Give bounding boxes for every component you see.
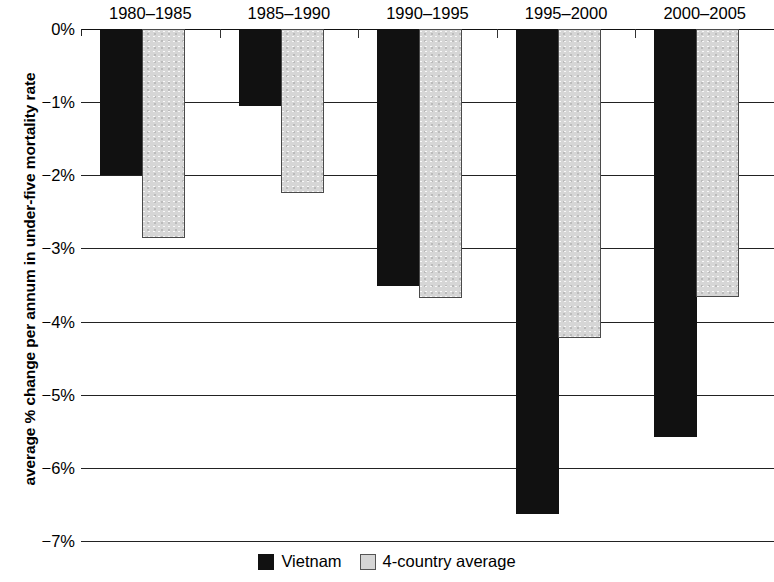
gridline-neg7 xyxy=(81,541,774,542)
bar-average xyxy=(419,29,462,298)
bar-average xyxy=(696,29,739,297)
gridline-neg6 xyxy=(81,468,774,469)
category-separator-tick xyxy=(497,29,498,38)
bar-vietnam xyxy=(654,29,697,437)
category-label: 1985–1990 xyxy=(220,4,359,23)
y-tick-label: 0% xyxy=(20,21,75,38)
bar-vietnam xyxy=(100,29,143,175)
plot-area xyxy=(81,29,774,541)
category-label: 1990–1995 xyxy=(358,4,497,23)
gray-square-swatch-icon xyxy=(360,554,376,570)
y-tick-label: −2% xyxy=(20,167,75,184)
bar-average xyxy=(142,29,185,238)
chart-legend: Vietnam 4-country average xyxy=(0,552,774,571)
legend-label-4-country-average: 4-country average xyxy=(383,552,516,571)
category-label: 2000–2005 xyxy=(635,4,774,23)
bar-vietnam xyxy=(516,29,559,514)
bar-average xyxy=(281,29,324,193)
legend-label-vietnam: Vietnam xyxy=(281,552,341,571)
y-tick-label: −6% xyxy=(20,460,75,477)
category-separator-tick xyxy=(635,29,636,38)
y-tick-label: −3% xyxy=(20,240,75,257)
y-axis-stub-tick xyxy=(81,29,82,36)
y-tick-label: −1% xyxy=(20,94,75,111)
category-separator-tick xyxy=(358,29,359,38)
y-tick-label: −5% xyxy=(20,386,75,403)
y-tick-label: −4% xyxy=(20,313,75,330)
bar-vietnam xyxy=(239,29,282,106)
legend-item-vietnam: Vietnam xyxy=(258,552,341,571)
black-square-swatch-icon xyxy=(258,554,274,570)
category-label: 1995–2000 xyxy=(497,4,636,23)
y-tick-label: −7% xyxy=(20,533,75,550)
bar-average xyxy=(558,29,601,338)
category-label: 1980–1985 xyxy=(81,4,220,23)
bar-vietnam xyxy=(377,29,420,286)
category-separator-tick xyxy=(220,29,221,38)
chart-figure: average % change per annum in under-five… xyxy=(0,0,774,582)
legend-item-4-country-average: 4-country average xyxy=(360,552,516,571)
